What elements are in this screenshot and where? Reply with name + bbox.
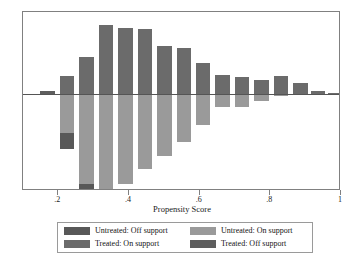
bar-treated-on-support bbox=[235, 77, 250, 94]
bar-treated-on-support bbox=[157, 46, 172, 94]
bar-untreated-on-support bbox=[60, 94, 75, 133]
legend-item-untreated-on-support[interactable]: Untreated: On support bbox=[187, 226, 309, 236]
bar-treated-on-support bbox=[177, 48, 192, 94]
legend-swatch-icon-untreated-on-support bbox=[190, 227, 216, 235]
bar-untreated-on-support bbox=[235, 94, 250, 107]
histogram-bars bbox=[23, 12, 339, 189]
bar-treated-on-support bbox=[196, 63, 211, 94]
bar-untreated-on-support bbox=[99, 94, 114, 189]
chart-root: .2.4.6.81 Propensity Score Untreated: Of… bbox=[0, 0, 364, 271]
bar-treated-on-support bbox=[293, 83, 308, 94]
bar-untreated-on-support bbox=[196, 94, 211, 125]
bar-treated-on-support bbox=[99, 25, 114, 94]
zero-axis-line bbox=[23, 94, 340, 95]
bar-untreated-on-support bbox=[215, 94, 230, 107]
plot-area bbox=[22, 11, 340, 190]
bar-untreated-on-support bbox=[138, 94, 153, 169]
bar-treated-on-support bbox=[274, 76, 289, 95]
bar-untreated-on-support bbox=[177, 94, 192, 142]
bar-treated-on-support bbox=[138, 29, 153, 94]
chart-legend: Untreated: Off support Untreated: On sup… bbox=[57, 222, 313, 253]
bar-untreated-off-support bbox=[79, 184, 94, 189]
bar-treated-on-support bbox=[60, 76, 75, 94]
legend-label-treated-off-support: Treated: Off support bbox=[221, 239, 286, 249]
bar-untreated-on-support bbox=[157, 94, 172, 156]
bar-treated-on-support bbox=[215, 75, 230, 94]
bar-untreated-off-support bbox=[60, 133, 75, 150]
bar-treated-on-support bbox=[118, 28, 133, 94]
x-axis-title: Propensity Score bbox=[0, 204, 364, 214]
legend-item-untreated-off-support[interactable]: Untreated: Off support bbox=[61, 226, 183, 236]
bar-treated-on-support bbox=[254, 80, 269, 94]
bar-treated-on-support bbox=[79, 57, 94, 94]
legend-swatch-icon-treated-off-support bbox=[190, 240, 216, 248]
legend-item-treated-off-support[interactable]: Treated: Off support bbox=[187, 239, 309, 249]
legend-label-treated-on-support: Treated: On support bbox=[95, 239, 159, 249]
legend-swatch-icon-untreated-off-support bbox=[64, 227, 90, 235]
legend-swatch-icon-treated-on-support bbox=[64, 240, 90, 248]
bar-untreated-on-support bbox=[118, 94, 133, 184]
legend-label-untreated-on-support: Untreated: On support bbox=[221, 226, 293, 236]
bar-untreated-on-support bbox=[79, 94, 94, 184]
legend-item-treated-on-support[interactable]: Treated: On support bbox=[61, 239, 183, 249]
bar-untreated-on-support bbox=[254, 94, 269, 101]
legend-label-untreated-off-support: Untreated: Off support bbox=[95, 226, 168, 236]
